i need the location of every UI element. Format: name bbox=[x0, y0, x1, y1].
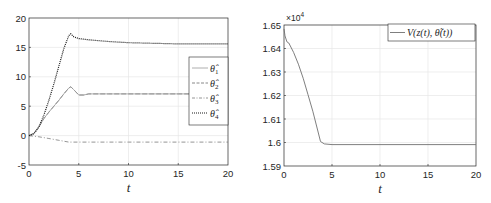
right-legend: V(z(t), θ̃(t)) bbox=[388, 24, 475, 41]
figure: 20 15 10 5 0 -5 0 5 10 15 20 t θ̂1 θ̂2 θ… bbox=[0, 0, 491, 203]
x-tick-label: 10 bbox=[375, 169, 386, 180]
y-tick-label: 1.6 bbox=[268, 137, 281, 148]
y-tick-label: 1.65 bbox=[263, 20, 282, 31]
x-tick-label: 15 bbox=[173, 168, 184, 179]
y-tick-label: 1.64 bbox=[263, 43, 282, 54]
y-exponent-label: ×104 bbox=[286, 11, 304, 23]
x-axis-label: t bbox=[127, 180, 131, 195]
x-tick-label: 10 bbox=[123, 168, 134, 179]
x-tick-label: 0 bbox=[281, 169, 286, 180]
y-tick-label: 20 bbox=[15, 13, 26, 24]
x-tick-label: 5 bbox=[329, 169, 334, 180]
x-axis-label: t bbox=[378, 181, 382, 196]
y-tick-label: 5 bbox=[21, 101, 26, 112]
x-tick-label: 15 bbox=[423, 169, 434, 180]
left-legend: θ̂1 θ̂2 θ̂3 θ̂4 bbox=[189, 57, 228, 125]
y-tick-label: 10 bbox=[15, 71, 26, 82]
y-tick-label: 0 bbox=[21, 130, 26, 141]
y-tick-label: 15 bbox=[15, 42, 26, 53]
y-tick-label: 1.63 bbox=[263, 67, 282, 78]
x-tick-label: 20 bbox=[223, 168, 234, 179]
x-tick-label: 5 bbox=[76, 168, 81, 179]
x-tick-label: 0 bbox=[26, 168, 31, 179]
y-tick-label: 1.62 bbox=[263, 90, 282, 101]
x-tick-label: 20 bbox=[471, 169, 482, 180]
y-tick-label: 1.59 bbox=[263, 161, 282, 172]
y-tick-label: 1.61 bbox=[263, 114, 282, 125]
legend-label: V(z(t), θ̃(t)) bbox=[407, 27, 453, 39]
y-tick-label: -5 bbox=[18, 160, 26, 171]
left-axes: 20 15 10 5 0 -5 0 5 10 15 20 t θ̂1 θ̂2 θ… bbox=[15, 13, 233, 196]
right-axes: ×104 1.65 1.64 1.63 1.62 1.61 1.6 1.59 0… bbox=[263, 11, 482, 196]
